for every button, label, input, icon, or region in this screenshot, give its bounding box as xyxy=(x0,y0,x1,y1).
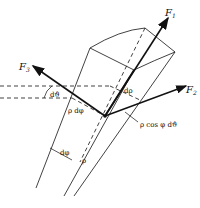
label-rho: ρ xyxy=(82,157,86,165)
svg-text:F1: F1 xyxy=(164,7,176,19)
label-d-phi: dφ xyxy=(60,149,69,157)
label-rho-d-phi: ρ dφ xyxy=(68,107,84,115)
label-d-theta: dϑ xyxy=(50,91,60,99)
svg-text:F3: F3 xyxy=(18,61,30,73)
figure: F1 F2 F3 dϑ dρ ρ dφ ρ cos φ dϑ dφ ρ xyxy=(0,0,200,208)
element-diagram: F1 F2 F3 dϑ dρ ρ dφ ρ cos φ dϑ dφ ρ xyxy=(0,0,200,208)
svg-text:F2: F2 xyxy=(185,84,197,96)
label-rho-cos-phi-d-theta: ρ cos φ dϑ xyxy=(140,121,177,129)
label-d-rho: dρ xyxy=(124,87,133,95)
